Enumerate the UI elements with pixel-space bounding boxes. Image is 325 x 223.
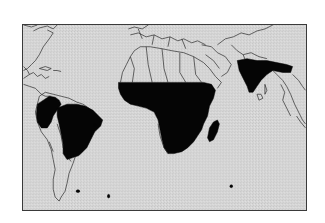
region-indian-ocean-island [230,185,233,188]
map-type-label: world distribution map [0,0,1,1]
region-south-atlantic-island-2 [107,194,109,198]
region-south-atlantic-island-1 [76,190,80,193]
map-frame [22,24,307,211]
region-island-atlantic-1 [93,124,96,127]
world-map [23,25,306,210]
